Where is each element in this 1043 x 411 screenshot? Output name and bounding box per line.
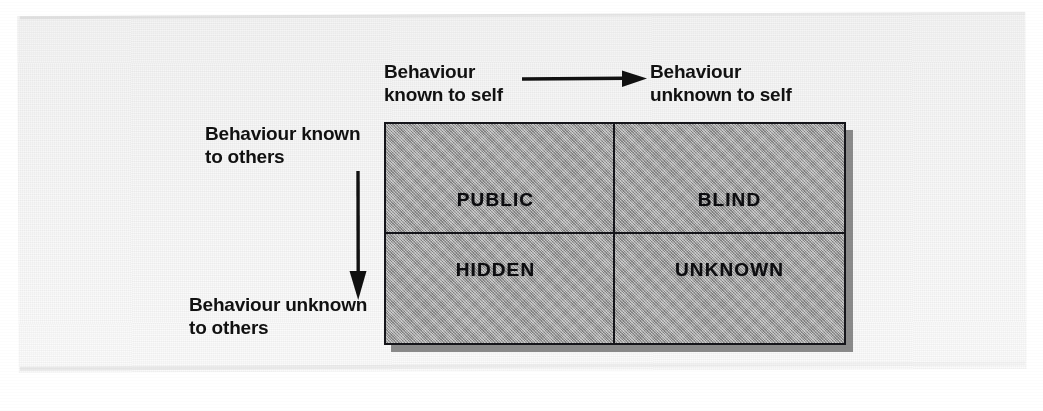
quadrant-unknown[interactable]: UNKNOWN [615,234,844,344]
johari-window-grid: PUBLIC BLIND HIDDEN UNKNOWN [384,122,846,345]
quadrant-blind[interactable]: BLIND [615,124,844,234]
diagram-canvas: Behaviour known to self Behaviour unknow… [0,0,1043,411]
axis-label-known-to-self: Behaviour known to self [384,60,503,106]
johari-window-figure: Behaviour known to self Behaviour unknow… [0,0,1043,411]
quadrant-label-unknown: UNKNOWN [675,259,784,281]
axis-label-unknown-to-self: Behaviour unknown to self [650,60,792,106]
quadrant-label-hidden: HIDDEN [456,259,535,281]
quadrant-label-blind: BLIND [698,189,762,211]
arrow-down-icon [344,170,372,300]
quadrant-hidden[interactable]: HIDDEN [386,234,615,344]
axis-label-known-to-others: Behaviour known to others [205,122,360,168]
quadrant-label-public: PUBLIC [457,189,534,211]
arrow-right-icon [521,68,647,90]
quadrant-public[interactable]: PUBLIC [386,124,615,234]
axis-label-unknown-to-others: Behaviour unknown to others [189,293,367,339]
